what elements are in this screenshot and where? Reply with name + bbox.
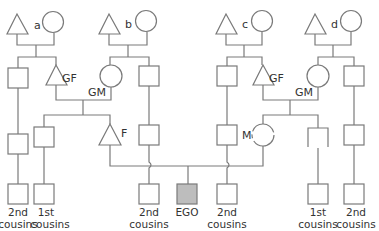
square-2nd-cousin-1 — [8, 184, 28, 204]
label-c: c — [242, 18, 248, 31]
square-parent-2nd-cousin-left — [8, 134, 28, 154]
sibling-bar-a — [18, 57, 56, 68]
label-mother: M — [242, 129, 252, 142]
triangle-father — [99, 124, 121, 145]
caption-2nd-cousins-3-line2: cousins — [207, 218, 246, 230]
sibling-bar-b — [110, 57, 149, 66]
connector-lines — [17, 32, 354, 184]
caption-1st-cousins-1-line2: cousins — [30, 218, 69, 230]
square-b-child — [139, 66, 159, 86]
square-parent-2nd-cousin-c — [217, 125, 237, 145]
label-father: F — [121, 127, 127, 140]
sibling-bar-c — [227, 57, 262, 66]
couple-line-a — [17, 33, 54, 45]
triangle-male-b — [99, 14, 120, 34]
shapes — [7, 11, 364, 155]
caption-1st-cousins-2-line1: 1st — [310, 206, 326, 218]
square-ego — [177, 184, 197, 204]
square-c-child — [217, 66, 237, 86]
triangle-male-d — [305, 14, 326, 34]
square-1st-cousin-2 — [308, 184, 328, 204]
square-1st-cousin-1 — [34, 184, 54, 204]
label-gm-left: GM — [88, 86, 106, 99]
square-parent-2nd-cousin-b — [139, 125, 159, 145]
caption-1st-cousins-2-line2: cousins — [298, 218, 337, 230]
square-2nd-cousin-4 — [344, 184, 364, 204]
label-gf-left: GF — [62, 72, 77, 85]
square-d-child — [344, 66, 364, 86]
circle-gm-left — [100, 65, 122, 87]
square-parent-1st-cousin-left — [34, 127, 54, 147]
caption-2nd-cousins-2-line2: cousins — [129, 218, 168, 230]
circle-female-b — [136, 11, 157, 32]
label-gf-right: GF — [269, 72, 284, 85]
circle-female-d — [341, 11, 362, 32]
triangle-male-a — [7, 14, 28, 34]
square-2nd-cousin-2 — [139, 184, 159, 204]
caption-2nd-cousins-2-line1: 2nd — [139, 206, 159, 218]
label-gm-right: GM — [295, 86, 313, 99]
descent-line-c-2nd-cousin — [227, 145, 229, 184]
sibling-bar-parents-left — [44, 115, 110, 127]
caption-2nd-cousins-4-line1: 2nd — [346, 206, 366, 218]
caption-2nd-cousins-4-line2: cousins — [336, 218, 375, 230]
square-a-child — [8, 68, 28, 88]
caption-2nd-cousins-3-line1: 2nd — [217, 206, 237, 218]
circle-mother — [252, 124, 274, 146]
caption-1st-cousins-1-line1: 1st — [38, 206, 54, 218]
caption-2nd-cousins-1-line1: 2nd — [8, 206, 28, 218]
caption-ego: EGO — [175, 206, 198, 218]
sibling-bar-parents-right — [263, 115, 318, 128]
bracket-parent-1st-cousin-right — [308, 128, 328, 147]
label-b: b — [125, 18, 132, 31]
triangle-male-c — [216, 14, 237, 34]
square-2nd-cousin-3 — [217, 184, 237, 204]
couple-line-f-m — [110, 145, 263, 166]
circle-gm-right — [307, 65, 329, 87]
descent-line-b-2nd-cousin — [149, 145, 151, 184]
square-parent-2nd-cousin-d — [344, 125, 364, 145]
bottom-row-shapes — [8, 184, 364, 204]
sibling-bar-d — [318, 57, 354, 66]
label-d: d — [331, 18, 338, 31]
circle-female-c — [252, 11, 273, 32]
kinship-diagram: a b c d GF GM GF GM F M 2nd cousins 1st … — [0, 0, 379, 231]
label-a: a — [34, 19, 41, 32]
circle-female-a — [43, 12, 64, 33]
